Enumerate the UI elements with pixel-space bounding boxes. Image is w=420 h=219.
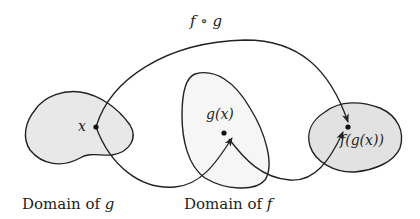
- domain-f-caption-var: f: [267, 195, 273, 213]
- point-fgx-label: f(g(x)): [340, 132, 384, 148]
- point-fgx: [345, 124, 350, 129]
- composition-diagram: f ∘ g x g(x) f(g(x)) Domain of g Domain …: [0, 0, 420, 219]
- composite-label: f ∘ g: [190, 12, 222, 30]
- domain-f-caption-prefix: Domain of: [184, 195, 267, 213]
- point-x-label: x: [78, 118, 86, 134]
- point-x: [93, 124, 98, 129]
- domain-g-caption: Domain of g: [22, 195, 114, 213]
- domain-f-caption: Domain of f: [184, 195, 272, 213]
- domain-g-caption-prefix: Domain of: [22, 195, 105, 213]
- domain-f-region: [182, 73, 269, 188]
- point-gx-label: g(x): [206, 106, 234, 122]
- point-gx: [221, 130, 226, 135]
- domain-g-caption-var: g: [105, 195, 115, 213]
